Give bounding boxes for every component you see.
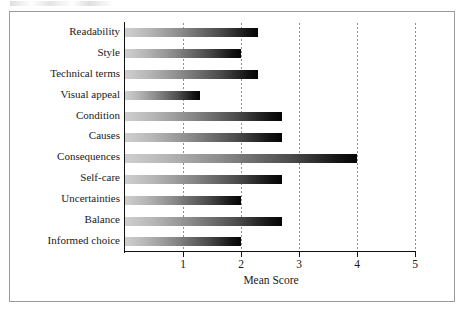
bar-technical-terms <box>125 70 258 79</box>
x-tick-label-3: 3 <box>284 257 314 271</box>
bar-consequences <box>125 154 357 163</box>
y-axis-label-balance: Balance <box>14 213 120 225</box>
bar-causes <box>125 133 282 142</box>
y-axis-label-style: Style <box>14 46 120 58</box>
y-axis-label-self-care: Self-care <box>14 171 120 183</box>
gridline-5 <box>415 23 416 251</box>
bar-uncertainties <box>125 196 241 205</box>
x-tick-label-2: 2 <box>226 257 256 271</box>
chart-figure: 12345 ReadabilityStyleTechnical termsVis… <box>0 0 467 319</box>
bar-informed-choice <box>125 237 241 246</box>
y-axis-label-causes: Causes <box>14 129 120 141</box>
bar-condition <box>125 112 282 121</box>
bar-readability <box>125 28 258 37</box>
y-axis-label-condition: Condition <box>14 109 120 121</box>
y-axis-label-informed-choice: Informed choice <box>14 234 120 246</box>
plot-area: 12345 ReadabilityStyleTechnical termsVis… <box>0 0 467 319</box>
y-axis-label-technical-terms: Technical terms <box>14 67 120 79</box>
gridline-3 <box>299 23 300 251</box>
bar-style <box>125 49 241 58</box>
x-axis-title: Mean Score <box>125 274 417 286</box>
bar-self-care <box>125 175 282 184</box>
x-tick-label-4: 4 <box>342 257 372 271</box>
x-axis-line <box>124 251 416 252</box>
x-tick-label-1: 1 <box>168 257 198 271</box>
y-axis-label-uncertainties: Uncertainties <box>14 192 120 204</box>
bar-balance <box>125 217 282 226</box>
y-axis-label-visual-appeal: Visual appeal <box>14 88 120 100</box>
y-axis-label-consequences: Consequences <box>14 150 120 162</box>
bar-visual-appeal <box>125 91 200 100</box>
y-axis-label-readability: Readability <box>14 25 120 37</box>
gridline-4 <box>357 23 358 251</box>
x-tick-label-5: 5 <box>400 257 430 271</box>
